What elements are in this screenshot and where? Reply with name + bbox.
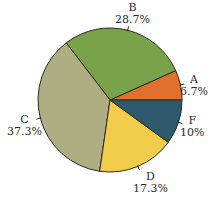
label-a-value: 6.7% [180,86,208,98]
label-d-value: 17.3% [133,183,168,195]
label-f: F 10% [180,115,204,139]
label-c: C 37.3% [7,114,42,138]
label-b-value: 28.7% [115,14,150,26]
label-c-value: 37.3% [7,126,42,138]
label-d: D 17.3% [133,171,168,195]
pie-slices [38,28,182,172]
label-f-value: 10% [180,127,204,139]
label-b: B 28.7% [115,2,150,26]
label-a: A 6.7% [180,74,208,98]
pie-chart [0,0,222,202]
